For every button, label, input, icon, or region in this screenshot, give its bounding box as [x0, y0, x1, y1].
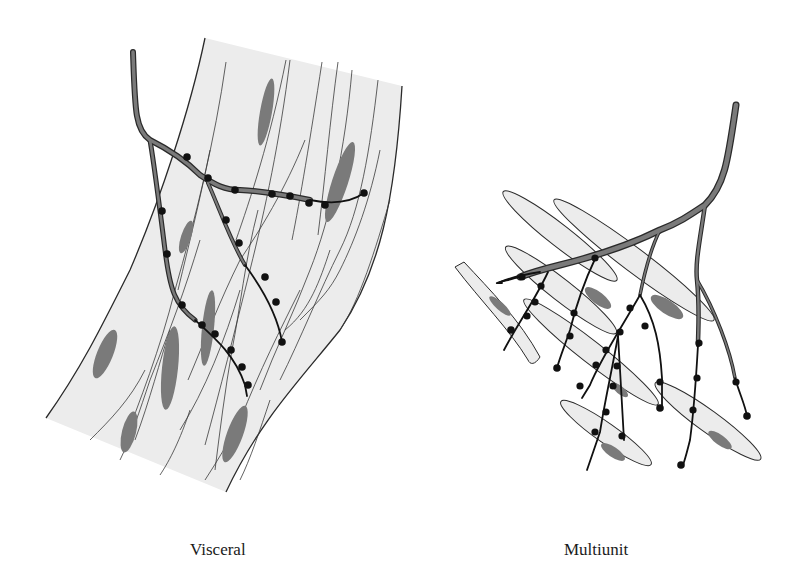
multiunit-caption: Multiunit	[564, 540, 628, 560]
visceral-panel	[46, 38, 402, 492]
smooth-muscle-diagram	[0, 0, 794, 580]
multiunit-panel	[455, 105, 767, 473]
visceral-caption: Visceral	[190, 540, 246, 560]
